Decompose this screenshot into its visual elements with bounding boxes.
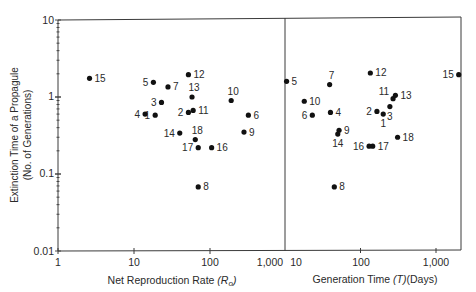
- data-point-14: 14: [164, 128, 183, 139]
- point-marker: [186, 72, 191, 77]
- point-label: 6: [253, 110, 259, 121]
- point-label: 5: [292, 76, 298, 87]
- data-point-18: 18: [395, 132, 414, 143]
- y-axis-title: Extinction Time of a Propagule (No. of G…: [9, 67, 33, 203]
- data-point-15: 15: [87, 73, 106, 84]
- data-point-18: 18: [192, 125, 204, 143]
- point-label: 15: [443, 69, 455, 80]
- point-marker: [327, 82, 332, 87]
- point-marker: [177, 130, 182, 135]
- y-title-line2: (No. of Generations): [22, 90, 33, 181]
- point-marker: [196, 145, 201, 150]
- right-x-tick-100: 100: [352, 256, 370, 268]
- point-label: 6: [302, 110, 308, 121]
- point-label: 13: [188, 82, 200, 93]
- data-point-6: 6: [246, 110, 260, 121]
- data-point-17: 17: [370, 141, 389, 152]
- data-point-11: 11: [379, 86, 396, 102]
- left-x-axis-title: Net Reproduction Rate (Ro): [108, 274, 237, 288]
- point-label: 10: [228, 86, 240, 97]
- data-point-14: 14: [332, 131, 344, 149]
- data-point-3: 3: [387, 104, 393, 122]
- left-panel-points: 123456789101112131415161718: [87, 69, 259, 192]
- point-marker: [191, 108, 196, 113]
- data-point-13: 13: [393, 90, 412, 101]
- extinction-time-chart: 10 1 0.1 0.01 Extinction Time of a Propa…: [0, 0, 476, 292]
- data-point-5: 5: [143, 77, 156, 88]
- data-point-9: 9: [241, 127, 255, 138]
- point-label: 3: [387, 111, 393, 122]
- point-marker: [393, 93, 398, 98]
- point-marker: [193, 137, 198, 142]
- data-point-15: 15: [443, 69, 462, 80]
- point-label: 3: [151, 97, 157, 108]
- point-label: 11: [379, 86, 390, 97]
- point-marker: [229, 98, 234, 103]
- point-label: 1: [380, 118, 386, 129]
- point-marker: [368, 70, 373, 75]
- point-marker: [328, 110, 333, 115]
- data-point-13: 13: [188, 82, 200, 100]
- point-marker: [143, 111, 148, 116]
- point-label: 7: [173, 81, 179, 92]
- right-x-axis-title: Generation Time (T)(Days): [313, 273, 438, 285]
- y-tick-labels: 10 1 0.1 0.01: [34, 14, 55, 257]
- data-point-2: 2: [366, 106, 379, 117]
- point-marker: [189, 94, 194, 99]
- data-point-12: 12: [186, 69, 205, 80]
- point-marker: [387, 104, 392, 109]
- y-tick-0.01: 0.01: [34, 245, 55, 257]
- left-x-tick-1: 1: [55, 256, 61, 268]
- y-tick-10: 10: [42, 14, 54, 26]
- point-marker: [374, 109, 379, 114]
- point-marker: [196, 184, 201, 189]
- right-panel-points: 123456789101112131415161718: [284, 67, 461, 192]
- data-point-2: 2: [178, 107, 191, 118]
- point-label: 8: [339, 181, 345, 192]
- point-marker: [153, 113, 158, 118]
- point-label: 18: [192, 125, 204, 136]
- point-label: 12: [193, 69, 205, 80]
- point-label: 13: [400, 90, 412, 101]
- plot-frame: [58, 17, 461, 251]
- point-marker: [456, 72, 461, 77]
- point-label: 15: [95, 73, 107, 84]
- point-label: 11: [198, 105, 209, 116]
- point-marker: [381, 111, 386, 116]
- point-marker: [310, 113, 315, 118]
- point-marker: [151, 80, 156, 85]
- data-point-8: 8: [332, 181, 346, 192]
- data-point-11: 11: [191, 105, 209, 116]
- point-label: 9: [344, 125, 350, 136]
- point-label: 4: [335, 107, 341, 118]
- data-point-16: 16: [209, 142, 228, 153]
- data-point-5: 5: [284, 76, 298, 87]
- point-label: 16: [217, 142, 229, 153]
- point-label: 16: [353, 141, 365, 152]
- point-label: 2: [178, 107, 184, 118]
- point-marker: [395, 135, 400, 140]
- data-point-10: 10: [228, 86, 240, 104]
- point-marker: [370, 144, 375, 149]
- point-marker: [246, 113, 251, 118]
- point-marker: [186, 110, 191, 115]
- y-title-line1: Extinction Time of a Propagule: [9, 67, 20, 203]
- data-point-7: 7: [165, 81, 179, 92]
- data-point-6: 6: [302, 110, 315, 121]
- point-label: 8: [203, 181, 209, 192]
- data-point-8: 8: [196, 181, 210, 192]
- point-label: 7: [329, 70, 335, 81]
- data-point-4: 4: [328, 107, 342, 118]
- point-label: 4: [135, 109, 141, 120]
- data-point-3: 3: [151, 97, 164, 108]
- point-label: 2: [366, 106, 372, 117]
- left-x-tick-1000: 1,000: [257, 256, 283, 268]
- point-label: 10: [309, 96, 321, 107]
- point-label: 17: [378, 141, 390, 152]
- right-x-tick-1000: 1,000: [423, 256, 449, 268]
- left-x-tick-10: 10: [128, 256, 140, 268]
- data-point-1: 1: [380, 111, 386, 129]
- point-marker: [335, 131, 340, 136]
- point-marker: [209, 145, 214, 150]
- data-point-12: 12: [368, 67, 387, 78]
